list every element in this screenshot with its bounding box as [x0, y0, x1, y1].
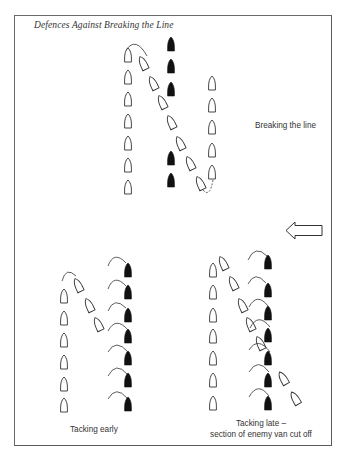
ship-outline-icon	[61, 311, 68, 325]
ship-filled-icon	[125, 329, 132, 343]
ship-outline-icon	[125, 180, 132, 194]
ship-outline-icon	[61, 398, 68, 412]
ship-outline-icon	[61, 333, 68, 347]
ship-outline-icon	[210, 308, 217, 322]
ship-outline-icon	[184, 155, 196, 171]
ship-filled-icon	[125, 397, 132, 411]
tack-arc	[108, 280, 126, 289]
ship-filled-icon	[125, 373, 132, 387]
ship-filled-icon	[168, 173, 175, 187]
ship-outline-icon	[194, 175, 206, 191]
ship-outline-icon	[165, 114, 177, 130]
tack-arc	[108, 368, 127, 376]
ship-outline-icon	[244, 316, 256, 332]
ship-outline-icon	[125, 114, 132, 128]
arrow-left-icon	[286, 222, 322, 239]
label-breaking-the-line: Breaking the line	[255, 120, 316, 131]
tack-arc	[249, 299, 268, 307]
label-tacking-late: Tacking late – section of enemy van cut …	[196, 418, 326, 440]
ship-outline-icon	[125, 158, 132, 172]
ship-outline-icon	[210, 329, 217, 343]
ship-outline-icon	[125, 70, 132, 84]
diagram-canvas	[0, 0, 344, 459]
ship-filled-icon	[168, 151, 175, 165]
ship-outline-icon	[92, 316, 104, 332]
tack-arc	[248, 277, 266, 284]
ship-outline-icon	[210, 263, 217, 277]
ship-outline-icon	[209, 165, 216, 179]
label-tacking-late-line1: Tacking late –	[196, 418, 326, 429]
ship-outline-icon	[210, 351, 217, 365]
ship-outline-icon	[137, 55, 149, 71]
ship-outline-icon	[147, 75, 159, 91]
tack-arc	[108, 303, 126, 311]
ship-outline-icon	[83, 297, 95, 313]
ship-filled-icon	[125, 351, 132, 365]
ship-outline-icon	[289, 390, 302, 406]
ship-outline-icon	[125, 92, 132, 106]
ship-outline-icon	[174, 135, 186, 151]
ship-filled-icon	[168, 82, 175, 96]
ship-outline-icon	[61, 355, 68, 369]
tack-arc	[108, 323, 128, 331]
ship-outline-icon	[209, 76, 216, 90]
ship-filled-icon	[265, 255, 272, 269]
tack-arc	[249, 365, 269, 373]
ship-filled-icon	[168, 59, 175, 73]
ship-outline-icon	[209, 98, 216, 112]
ship-filled-icon	[265, 396, 272, 410]
ship-outline-icon	[125, 48, 132, 62]
ship-outline-icon	[236, 297, 248, 313]
ship-outline-icon	[210, 396, 217, 410]
ship-outline-icon	[125, 136, 132, 150]
ship-outline-icon	[209, 120, 216, 134]
ship-filled-icon	[265, 351, 272, 365]
tack-arc	[248, 251, 267, 260]
ship-filled-icon	[125, 308, 132, 322]
ship-outline-icon	[61, 289, 68, 303]
label-tacking-late-line2: section of enemy van cut off	[196, 429, 326, 440]
tack-arc	[108, 257, 126, 266]
ship-outline-icon	[254, 335, 266, 351]
ship-outline-icon	[217, 255, 229, 271]
ship-filled-icon	[265, 328, 272, 342]
ship-filled-icon	[265, 283, 272, 297]
label-tacking-early: Tacking early	[70, 424, 118, 435]
tack-arc	[62, 272, 76, 281]
ship-filled-icon	[265, 373, 272, 387]
ship-outline-icon	[227, 275, 239, 291]
ship-outline-icon	[156, 94, 168, 110]
tack-arc	[108, 345, 128, 352]
tack-arc	[108, 392, 127, 399]
ship-outline-icon	[61, 377, 68, 391]
enemy-ships-group	[125, 37, 272, 411]
tack-arcs-group	[62, 44, 270, 399]
ship-filled-icon	[265, 306, 272, 320]
ship-outline-icon	[209, 143, 216, 157]
ship-outline-icon	[210, 373, 217, 387]
ship-filled-icon	[125, 285, 132, 299]
ship-outline-icon	[72, 277, 84, 293]
ship-filled-icon	[168, 37, 175, 51]
ship-filled-icon	[125, 263, 132, 277]
ship-outline-icon	[277, 370, 290, 386]
tack-arc	[249, 389, 269, 397]
ship-outline-icon	[210, 285, 217, 299]
